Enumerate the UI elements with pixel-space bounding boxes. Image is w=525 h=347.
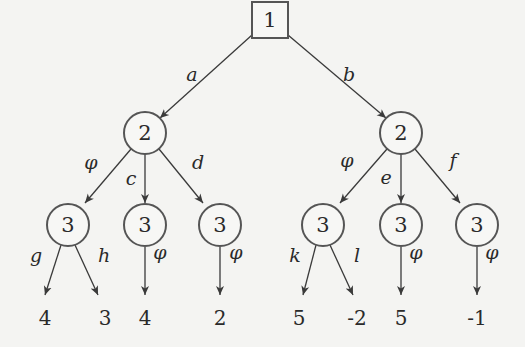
edge-label-phi: φ xyxy=(153,241,167,263)
node-player3-5: 3 xyxy=(380,204,422,246)
payoff-leaf-3: 4 xyxy=(139,306,152,330)
edge-label-d: d xyxy=(192,151,204,173)
edge-label-g: g xyxy=(30,244,42,266)
edge-label-l: l xyxy=(354,244,360,266)
edge-label-h: h xyxy=(98,244,110,266)
node-label: 3 xyxy=(316,213,329,237)
node-label: 3 xyxy=(470,213,483,237)
payoff-leaf-6: -2 xyxy=(347,306,366,330)
edge-label-phi: φ xyxy=(340,149,354,171)
payoff-leaf-8: -1 xyxy=(467,306,486,330)
edge-label-c: c xyxy=(126,167,137,189)
edge-b xyxy=(288,35,386,118)
payoff-leaf-1: 4 xyxy=(39,306,52,330)
payoff-leaf-2: 3 xyxy=(99,306,112,330)
edge-label-phi: φ xyxy=(229,241,243,263)
payoff-leaf-7: 5 xyxy=(395,306,408,330)
node-label: 3 xyxy=(61,213,74,237)
node-root: 1 xyxy=(252,2,288,38)
node-player3-4: 3 xyxy=(302,204,344,246)
node-root-label: 1 xyxy=(263,8,276,32)
node-player3-3: 3 xyxy=(199,204,241,246)
edge-l xyxy=(330,245,353,295)
edge-label-f: f xyxy=(447,149,459,171)
edge-k xyxy=(303,245,316,295)
edge-label-k: k xyxy=(289,244,301,266)
node-player3-6: 3 xyxy=(456,204,498,246)
node-player2-right: 2 xyxy=(380,112,422,154)
edge-label-e: e xyxy=(380,166,391,188)
node-player2-left: 2 xyxy=(124,112,166,154)
node-label: 2 xyxy=(138,121,151,145)
node-player3-1: 3 xyxy=(47,204,89,246)
node-player3-2: 3 xyxy=(124,204,166,246)
payoff-leaf-4: 2 xyxy=(214,306,227,330)
edge-g xyxy=(45,245,61,295)
game-tree-diagram: 1 2 2 3 3 3 3 3 3 a b φ c d φ e f g h φ … xyxy=(0,0,525,347)
node-label: 3 xyxy=(138,213,151,237)
edge-label-phi: φ xyxy=(485,241,499,263)
edge-label-phi: φ xyxy=(84,151,98,173)
node-label: 3 xyxy=(394,213,407,237)
payoff-leaf-5: 5 xyxy=(293,306,306,330)
node-label: 3 xyxy=(213,213,226,237)
node-label: 2 xyxy=(394,121,407,145)
edge-h xyxy=(75,245,98,295)
edge-label-a: a xyxy=(186,63,197,85)
edge-label-b: b xyxy=(343,63,355,85)
edge-a xyxy=(160,35,252,118)
edge-label-phi: φ xyxy=(409,241,423,263)
